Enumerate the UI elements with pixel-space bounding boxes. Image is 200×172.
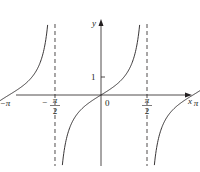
origin-label: 0 [105, 98, 110, 108]
tan-graph: 1−3π2−π−π2π2π3π20xy [0, 0, 200, 172]
y-tick-label: 1 [91, 72, 96, 82]
x-tick-numerator: π [53, 95, 58, 105]
x-tick-label: −π [0, 98, 11, 108]
x-tick-denominator: 2 [145, 106, 150, 116]
x-tick-denominator: 2 [53, 106, 58, 116]
axes [16, 19, 192, 166]
y-axis-label: y [91, 18, 96, 28]
y-axis-arrow-icon [99, 19, 104, 26]
tick-labels: 1−3π2−π−π2π2π3π20xy [0, 18, 200, 116]
x-axis-label: x [187, 96, 192, 106]
x-tick-numerator: π [145, 95, 150, 105]
x-tick-label: π [194, 98, 199, 108]
minus-sign: − [42, 97, 47, 107]
